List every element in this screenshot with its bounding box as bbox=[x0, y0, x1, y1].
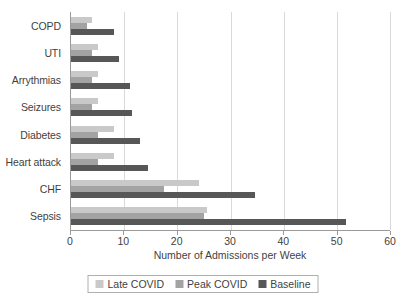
bar-group bbox=[71, 94, 390, 121]
category-label: UTI bbox=[0, 39, 66, 66]
bar-group bbox=[71, 67, 390, 94]
legend-label: Peak COVID bbox=[187, 278, 247, 290]
x-tick-label: 10 bbox=[117, 235, 129, 247]
bar bbox=[71, 165, 148, 171]
category-label: COPD bbox=[0, 12, 66, 39]
bar-groups bbox=[71, 12, 390, 230]
legend-label: Baseline bbox=[270, 278, 310, 290]
bar bbox=[71, 192, 255, 198]
x-tick-label: 60 bbox=[384, 235, 396, 247]
category-label: Heart attack bbox=[0, 148, 66, 175]
x-axis-ticks: 0102030405060 bbox=[70, 231, 390, 247]
category-label: Seizures bbox=[0, 94, 66, 121]
bar bbox=[71, 56, 119, 62]
bar-group bbox=[71, 12, 390, 39]
category-label: Diabetes bbox=[0, 121, 66, 148]
x-axis-title: Number of Admissions per Week bbox=[70, 249, 390, 261]
legend-item[interactable]: Peak COVID bbox=[175, 278, 247, 290]
bar bbox=[71, 110, 132, 116]
bar-group bbox=[71, 121, 390, 148]
bar-group bbox=[71, 39, 390, 66]
bar bbox=[71, 219, 346, 225]
legend-swatch-icon bbox=[96, 280, 104, 288]
chart-legend: Late COVIDPeak COVIDBaseline bbox=[88, 275, 319, 293]
legend-swatch-icon bbox=[258, 280, 266, 288]
legend-swatch-icon bbox=[175, 280, 183, 288]
x-tick-label: 20 bbox=[171, 235, 183, 247]
legend-item[interactable]: Late COVID bbox=[96, 278, 165, 290]
category-label: Sepsis bbox=[0, 203, 66, 230]
bar-group bbox=[71, 176, 390, 203]
x-tick-label: 40 bbox=[277, 235, 289, 247]
gridline bbox=[390, 12, 391, 230]
bar bbox=[71, 29, 114, 35]
bar-chart: COPDUTIArrythmiasSeizuresDiabetesHeart a… bbox=[0, 0, 406, 303]
x-tick-label: 50 bbox=[331, 235, 343, 247]
x-tick-label: 0 bbox=[67, 235, 73, 247]
x-tick-label: 30 bbox=[224, 235, 236, 247]
bar-group bbox=[71, 148, 390, 175]
legend-item[interactable]: Baseline bbox=[258, 278, 310, 290]
bar-group bbox=[71, 203, 390, 230]
category-axis: COPDUTIArrythmiasSeizuresDiabetesHeart a… bbox=[0, 12, 66, 230]
bar bbox=[71, 138, 140, 144]
bar bbox=[71, 83, 130, 89]
plot-area bbox=[70, 12, 390, 230]
legend-label: Late COVID bbox=[108, 278, 165, 290]
category-label: Arrythmias bbox=[0, 67, 66, 94]
category-label: CHF bbox=[0, 176, 66, 203]
